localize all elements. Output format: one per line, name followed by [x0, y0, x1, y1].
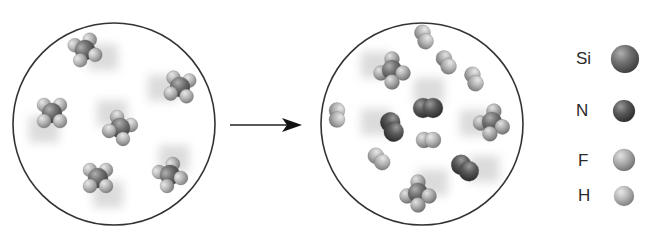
molecule-sih4 — [141, 132, 204, 195]
molecule-hf — [416, 132, 441, 148]
products-panel — [321, 23, 523, 225]
molecule-n2 — [447, 135, 512, 199]
atom-h — [425, 132, 441, 148]
legend-label-silicon: Si — [576, 50, 591, 67]
diagram-canvas — [0, 0, 661, 239]
atom-h — [329, 112, 345, 128]
molecule-hf — [433, 48, 459, 78]
molecule-h2 — [462, 65, 486, 94]
molecule-sih4 — [66, 25, 126, 84]
molecule-sih4 — [29, 98, 67, 143]
atom-f — [385, 75, 400, 90]
molecule-sif4 — [456, 98, 514, 144]
legend-sphere-fluorine — [613, 149, 635, 171]
legend-sphere-nitrogen — [613, 100, 635, 122]
molecule-n2 — [413, 78, 444, 118]
legend-sphere-silicon — [611, 45, 639, 73]
legend-label-hydrogen: H — [578, 187, 590, 204]
reaction-arrow — [230, 118, 302, 132]
atom-n — [423, 98, 443, 118]
molecule-h2 — [412, 23, 436, 52]
molecule-sih4 — [83, 163, 123, 208]
atom-h — [99, 179, 113, 193]
molecule-sif4 — [400, 169, 448, 212]
legend-label-fluorine: F — [578, 152, 588, 169]
legend — [611, 45, 639, 206]
molecule-h2 — [329, 103, 345, 128]
legend-label-nitrogen: N — [576, 102, 588, 119]
atom-h — [83, 179, 97, 193]
atom-h — [53, 114, 67, 128]
atom-h — [37, 114, 51, 128]
reactants-panel — [13, 23, 215, 225]
molecule-sif4 — [361, 52, 410, 90]
molecule-n2 — [353, 98, 407, 152]
atom-f — [411, 198, 426, 213]
molecule-sih4 — [83, 87, 146, 148]
legend-sphere-hydrogen — [614, 186, 634, 206]
reaction-diagram: SiNFH — [0, 0, 661, 239]
molecule-sih4 — [144, 66, 198, 108]
molecule-h2 — [365, 145, 394, 174]
